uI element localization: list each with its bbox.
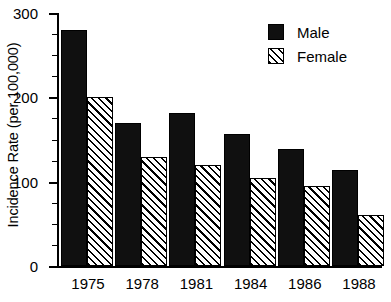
- legend-label-male: Male: [297, 25, 330, 40]
- bar-male-1988: [332, 170, 358, 266]
- y-axis-title-container: Incidence Rate (per 100,000): [0, 0, 26, 270]
- solid-square-icon: [268, 24, 284, 40]
- x-axis-tick-label-1981: 1981: [169, 275, 223, 292]
- bar-male-1975: [61, 30, 87, 266]
- bar-chart-figure: Incidence Rate (per 100,000) 300 200 100…: [0, 0, 391, 302]
- y-axis-line: [57, 13, 59, 266]
- y-axis-tick-label-100: 100: [13, 174, 38, 189]
- bar-group-1981: 1981: [169, 13, 223, 266]
- bar-group-1975: 1975: [61, 13, 115, 266]
- bar-male-1986: [278, 149, 304, 266]
- legend-item-male: Male: [268, 20, 347, 44]
- bar-female-1981: [195, 165, 221, 266]
- y-axis-tick-label-300: 300: [13, 6, 38, 21]
- y-axis-tick-label-0: 0: [30, 259, 38, 274]
- bar-male-1984: [224, 134, 250, 266]
- y-axis-tick-300: 300: [49, 13, 57, 15]
- y-axis-minor-tick-50: [52, 224, 57, 225]
- y-axis-minor-tick-75: [52, 203, 57, 204]
- x-axis-tick-label-1975: 1975: [61, 275, 115, 292]
- x-axis-tick-label-1988: 1988: [332, 275, 386, 292]
- bar-female-1988: [358, 215, 384, 266]
- bar-female-1984: [250, 178, 276, 267]
- bar-female-1975: [87, 97, 113, 266]
- y-axis-minor-tick-25: [52, 245, 57, 246]
- y-axis-minor-tick-150: [52, 140, 57, 141]
- y-axis-tick-100: 100: [49, 182, 57, 184]
- y-axis-minor-tick-225: [52, 76, 57, 77]
- y-axis-minor-tick-125: [52, 161, 57, 162]
- bar-male-1978: [115, 123, 141, 266]
- bar-group-1978: 1978: [115, 13, 169, 266]
- bar-female-1986: [304, 186, 330, 266]
- y-axis-minor-tick-275: [52, 34, 57, 35]
- x-axis-tick-label-1986: 1986: [278, 275, 332, 292]
- x-axis-tick-label-1978: 1978: [115, 275, 169, 292]
- y-axis-tick-0: 0: [49, 266, 57, 268]
- y-axis-tick-label-200: 200: [13, 90, 38, 105]
- x-axis-tick-label-1984: 1984: [224, 275, 278, 292]
- hatched-square-icon: [268, 48, 284, 64]
- x-axis-line: [57, 266, 382, 268]
- y-axis-minor-tick-175: [52, 118, 57, 119]
- y-axis-minor-tick-250: [52, 55, 57, 56]
- bar-male-1981: [169, 113, 195, 266]
- legend-label-female: Female: [297, 49, 347, 64]
- y-axis-title: Incidence Rate (per 100,000): [5, 42, 21, 227]
- chart-legend: Male Female: [268, 20, 347, 68]
- bar-female-1978: [141, 157, 167, 266]
- legend-item-female: Female: [268, 44, 347, 68]
- y-axis-tick-200: 200: [49, 97, 57, 99]
